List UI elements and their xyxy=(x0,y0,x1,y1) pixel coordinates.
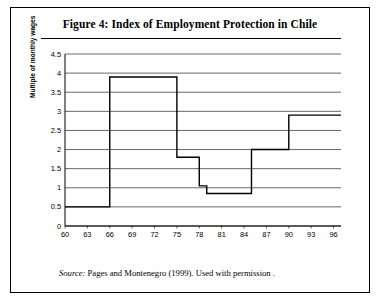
svg-text:2: 2 xyxy=(57,145,61,154)
svg-text:96: 96 xyxy=(329,230,337,239)
source-text: Pages and Montenegro (1999). Used with p… xyxy=(85,268,275,278)
source-note: Source: Pages and Montenegro (1999). Use… xyxy=(59,268,275,278)
svg-text:1.5: 1.5 xyxy=(51,164,61,173)
svg-text:84: 84 xyxy=(240,230,248,239)
svg-text:87: 87 xyxy=(262,230,270,239)
employment-protection-line-chart: 00.511.522.533.544.560636669727578818487… xyxy=(37,46,347,246)
chart-container: Multiple of monthly wages 00.511.522.533… xyxy=(37,46,347,246)
source-label: Source: xyxy=(59,268,85,278)
figure-title: Figure 4: Index of Employment Protection… xyxy=(11,18,369,30)
svg-text:69: 69 xyxy=(128,230,136,239)
svg-text:75: 75 xyxy=(173,230,181,239)
svg-text:93: 93 xyxy=(307,230,315,239)
svg-text:3: 3 xyxy=(57,107,61,116)
svg-text:2.5: 2.5 xyxy=(51,126,61,135)
y-axis-title: Multiple of monthly wages xyxy=(29,0,36,98)
svg-text:0.5: 0.5 xyxy=(51,202,61,211)
svg-text:90: 90 xyxy=(285,230,293,239)
svg-text:81: 81 xyxy=(218,230,226,239)
svg-text:66: 66 xyxy=(106,230,114,239)
figure-frame: Figure 4: Index of Employment Protection… xyxy=(10,7,370,293)
svg-text:3.5: 3.5 xyxy=(51,88,61,97)
svg-text:63: 63 xyxy=(83,230,91,239)
svg-text:1: 1 xyxy=(57,183,61,192)
svg-text:4: 4 xyxy=(57,69,61,78)
svg-text:72: 72 xyxy=(150,230,158,239)
svg-text:4.5: 4.5 xyxy=(51,50,61,59)
svg-text:60: 60 xyxy=(61,230,69,239)
svg-text:78: 78 xyxy=(195,230,203,239)
title-divider xyxy=(41,38,341,39)
